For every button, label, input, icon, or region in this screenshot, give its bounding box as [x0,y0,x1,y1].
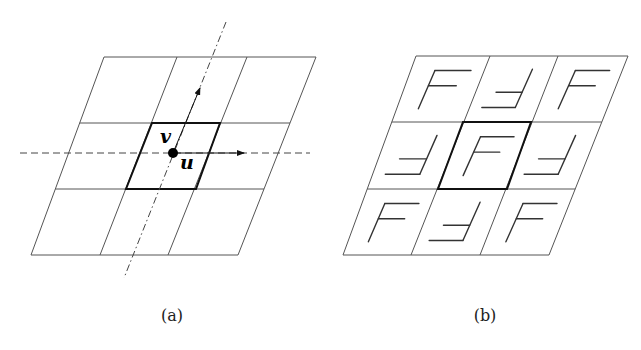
glyph-F [418,71,471,109]
glyph-F [506,204,557,242]
grid-column-line [238,57,316,255]
glyph-rotated-F [385,135,437,174]
glyph-rotated-F [524,135,575,174]
panel-a-lattice [20,22,316,278]
panel-b-caption: (b) [474,306,497,325]
glyph-rotated-F [482,69,533,107]
vector-v-label: v [160,125,171,147]
glyph-F [463,137,514,176]
glyph-F [368,204,419,242]
vector-u-label: u [180,151,194,173]
glyph-F [558,71,609,109]
panel-b-symmetry-lattice [343,56,628,255]
grid-column-line [31,57,104,255]
panel-a-caption: (a) [161,306,183,325]
glyph-rotated-F [429,202,480,240]
unit-cell-outline [438,122,531,189]
lattice-figure [0,0,641,350]
grid-column-line [343,56,416,255]
origin-dot [168,148,178,158]
vector-v-arrow [173,88,200,153]
